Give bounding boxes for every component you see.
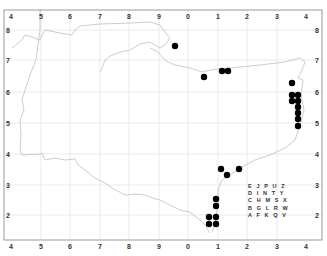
record-dot <box>218 166 224 172</box>
x-tick-label-top: 4 <box>9 13 13 20</box>
y-tick-label-right: 6 <box>315 89 319 96</box>
record-dot <box>289 80 295 86</box>
x-tick-label-bottom: 7 <box>98 243 102 250</box>
record-dot <box>206 221 212 227</box>
x-tick-label-bottom: 4 <box>9 243 13 250</box>
x-tick-label-top: 2 <box>245 13 249 20</box>
x-tick-label-top: 5 <box>39 13 43 20</box>
y-tick-label-right: 8 <box>315 27 319 34</box>
record-dot <box>236 166 242 172</box>
record-dot <box>206 214 212 220</box>
record-dot <box>219 68 225 74</box>
x-tick-label-bottom: 5 <box>39 243 43 250</box>
y-tick-label-left: 8 <box>6 27 10 34</box>
legend-row: D I N T Y <box>248 190 289 197</box>
x-tick-label-top: 0 <box>186 13 190 20</box>
x-tick-label-bottom: 6 <box>68 243 72 250</box>
record-dot <box>225 68 231 74</box>
x-tick-label-bottom: 3 <box>275 243 279 250</box>
y-tick-label-left: 3 <box>6 182 10 189</box>
x-tick-label-bottom: 4 <box>304 243 308 250</box>
legend-row: C H M S X <box>248 197 289 204</box>
x-tick-label-top: 4 <box>304 13 308 20</box>
x-tick-label-top: 8 <box>127 13 131 20</box>
record-dot <box>172 43 178 49</box>
y-tick-label-right: 7 <box>315 57 319 64</box>
record-dot <box>213 196 219 202</box>
x-tick-label-top: 1 <box>216 13 220 20</box>
x-tick-label-bottom: 9 <box>157 243 161 250</box>
x-tick-label-top: 9 <box>157 13 161 20</box>
record-dot <box>295 123 301 129</box>
y-tick-label-left: 2 <box>6 212 10 219</box>
x-tick-label-bottom: 2 <box>245 243 249 250</box>
y-tick-label-right: 4 <box>315 151 319 158</box>
record-dot <box>295 110 301 116</box>
record-dot <box>295 116 301 122</box>
legend-row: A F K Q V <box>248 212 289 219</box>
y-tick-label-left: 6 <box>6 89 10 96</box>
y-tick-label-left: 5 <box>6 120 10 127</box>
record-dot <box>213 203 219 209</box>
y-tick-label-right: 5 <box>315 120 319 127</box>
y-tick-label-left: 7 <box>6 57 10 64</box>
y-tick-label-left: 4 <box>6 151 10 158</box>
record-dot <box>295 98 301 104</box>
x-tick-label-top: 7 <box>98 13 102 20</box>
grid-letter-legend: E J P U Z D I N T Y C H M S X B G L R W … <box>248 183 289 219</box>
y-tick-label-right: 2 <box>315 212 319 219</box>
legend-row: E J P U Z <box>248 183 289 190</box>
legend-row: B G L R W <box>248 205 289 212</box>
record-dot <box>289 98 295 104</box>
record-dot <box>213 221 219 227</box>
record-dot <box>224 172 230 178</box>
x-tick-label-bottom: 1 <box>216 243 220 250</box>
x-tick-label-bottom: 0 <box>186 243 190 250</box>
record-dot <box>213 214 219 220</box>
record-dot <box>295 104 301 110</box>
record-dot <box>289 92 295 98</box>
record-dot <box>201 74 207 80</box>
x-tick-label-top: 6 <box>68 13 72 20</box>
x-tick-label-bottom: 8 <box>127 243 131 250</box>
x-tick-label-top: 3 <box>275 13 279 20</box>
y-tick-label-right: 3 <box>315 182 319 189</box>
record-dot <box>295 92 301 98</box>
